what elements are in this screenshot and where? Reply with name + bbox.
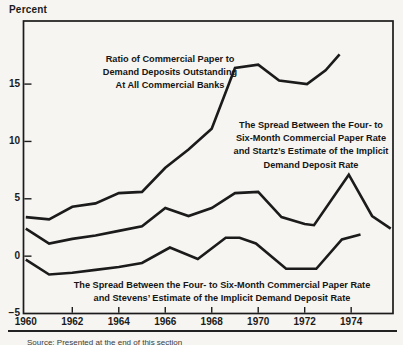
annotation-line: Demand Deposits Outstanding (95, 66, 245, 79)
x-axis-tick-label: 1968 (195, 316, 229, 327)
y-axis-tick-label: 0 (0, 250, 20, 261)
annotation-line: At All Commercial Banks (95, 79, 245, 92)
annotation-line: Demand Deposit Rate (223, 159, 399, 172)
annotation-stevens-spread-series: The Spread Between the Four- to Six-Mont… (52, 279, 392, 305)
x-axis-tick-label: 1960 (9, 316, 43, 327)
x-axis-tick-label: 1964 (102, 316, 136, 327)
x-axis-tick-label: 1974 (334, 316, 368, 327)
series-stevens-spread-line (26, 234, 361, 274)
annotation-ratio-series: Ratio of Commercial Paper to Demand Depo… (95, 53, 245, 93)
annotation-line: and Stevens’ Estimate of the Implicit De… (52, 292, 392, 305)
x-axis-tick-label: 1966 (148, 316, 182, 327)
annotation-line: and Startz’s Estimate of the Implicit (223, 145, 399, 158)
y-axis-tick-label: 5 (0, 192, 20, 203)
annotation-line: The Spread Between the Four- to Six-Mont… (52, 279, 392, 292)
series-startz-spread-line (26, 175, 391, 244)
annotation-line: Ratio of Commercial Paper to (95, 53, 245, 66)
x-axis-tick-label: 1962 (55, 316, 89, 327)
y-axis-tick-label: 15 (0, 78, 20, 89)
y-axis-tick-label: 10 (0, 135, 20, 146)
chart-page: Percent 151050−5196019621964196619681970… (0, 0, 403, 345)
footer-rule (8, 330, 397, 332)
annotation-line: The Spread Between the Four- to (223, 119, 399, 132)
source-note: Source: Presented at the end of this sec… (27, 338, 182, 345)
annotation-startz-spread-series: The Spread Between the Four- to Six-Mont… (223, 119, 399, 172)
x-axis-tick-label: 1970 (241, 316, 275, 327)
annotation-line: Six-Month Commercial Paper Rate (223, 132, 399, 145)
x-axis-tick-label: 1972 (288, 316, 322, 327)
